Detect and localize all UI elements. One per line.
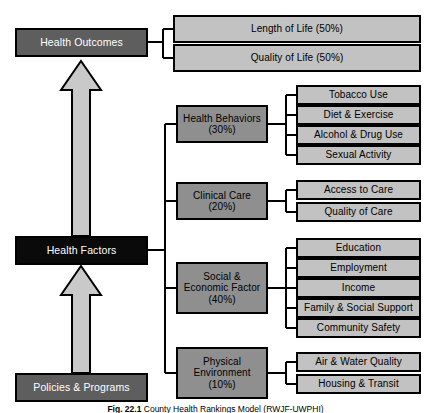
measure-tobacco-use[interactable]: Tobacco Use [296,85,421,105]
measure-quality-of-care-label: Quality of Care [324,206,392,217]
measure-housing-transit-label: Housing & Transit [318,378,399,389]
node-health-outcomes[interactable]: Health Outcomes [15,28,148,57]
measure-alcohol-drug-use-label: Alcohol & Drug Use [314,129,403,140]
factor-clinical-care[interactable]: Clinical Care (20%) [176,182,268,220]
county-health-rankings-diagram: Health Outcomes Health Factors Policies … [0,0,431,413]
figure-caption-text: County Health Rankings Model (RWJF-UWPHI… [144,404,324,413]
measure-air-water-quality[interactable]: Air & Water Quality [296,352,421,372]
measure-air-water-quality-label: Air & Water Quality [315,356,402,367]
measure-access-to-care-label: Access to Care [324,184,393,195]
outcome-quality-of-life-label: Quality of Life (50%) [251,52,344,63]
measure-community-safety[interactable]: Community Safety [296,318,421,338]
outcome-length-of-life[interactable]: Length of Life (50%) [173,15,421,43]
factor-health-behaviors[interactable]: Health Behaviors (30%) [176,105,268,143]
factor-health-behaviors-label: Health Behaviors (30%) [183,113,261,135]
measure-housing-transit[interactable]: Housing & Transit [296,374,421,394]
measure-employment[interactable]: Employment [296,258,421,278]
node-health-outcomes-label: Health Outcomes [40,37,123,49]
node-health-factors-label: Health Factors [47,245,117,257]
measure-tobacco-use-label: Tobacco Use [329,89,388,100]
factor-physical-environment[interactable]: Physical Environment (10%) [176,347,268,399]
arrow-factors-to-outcomes [61,61,101,236]
measure-access-to-care[interactable]: Access to Care [296,180,421,200]
factor-physical-environment-label: Physical Environment (10%) [193,356,250,390]
measure-education-label: Education [336,242,381,253]
measure-diet-exercise-label: Diet & Exercise [324,109,394,120]
measure-employment-label: Employment [330,262,387,273]
node-policies-programs[interactable]: Policies & Programs [15,373,148,402]
measure-family-social-support-label: Family & Social Support [304,302,413,313]
arrow-policies-to-factors [61,266,101,373]
measure-diet-exercise[interactable]: Diet & Exercise [296,105,421,125]
measure-family-social-support[interactable]: Family & Social Support [296,298,421,318]
node-health-factors[interactable]: Health Factors [15,236,148,265]
measure-sexual-activity-label: Sexual Activity [326,149,392,160]
factor-social-economic-label: Social & Economic Factor (40%) [184,271,261,305]
node-policies-programs-label: Policies & Programs [33,382,129,394]
measure-community-safety-label: Community Safety [317,322,400,333]
measure-income[interactable]: Income [296,278,421,298]
factor-social-economic[interactable]: Social & Economic Factor (40%) [176,262,268,314]
measure-income-label: Income [342,282,375,293]
outcome-length-of-life-label: Length of Life (50%) [251,23,343,34]
measure-alcohol-drug-use[interactable]: Alcohol & Drug Use [296,125,421,145]
figure-caption: Fig. 22.1 County Health Rankings Model (… [0,404,431,413]
measure-education[interactable]: Education [296,238,421,258]
outcome-quality-of-life[interactable]: Quality of Life (50%) [173,44,421,72]
measure-sexual-activity[interactable]: Sexual Activity [296,145,421,165]
figure-caption-label: Fig. 22.1 [107,404,141,413]
measure-quality-of-care[interactable]: Quality of Care [296,202,421,222]
factor-clinical-care-label: Clinical Care (20%) [193,190,251,212]
